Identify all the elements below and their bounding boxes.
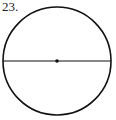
circle-diagram (0, 0, 116, 120)
center-point (55, 59, 59, 63)
